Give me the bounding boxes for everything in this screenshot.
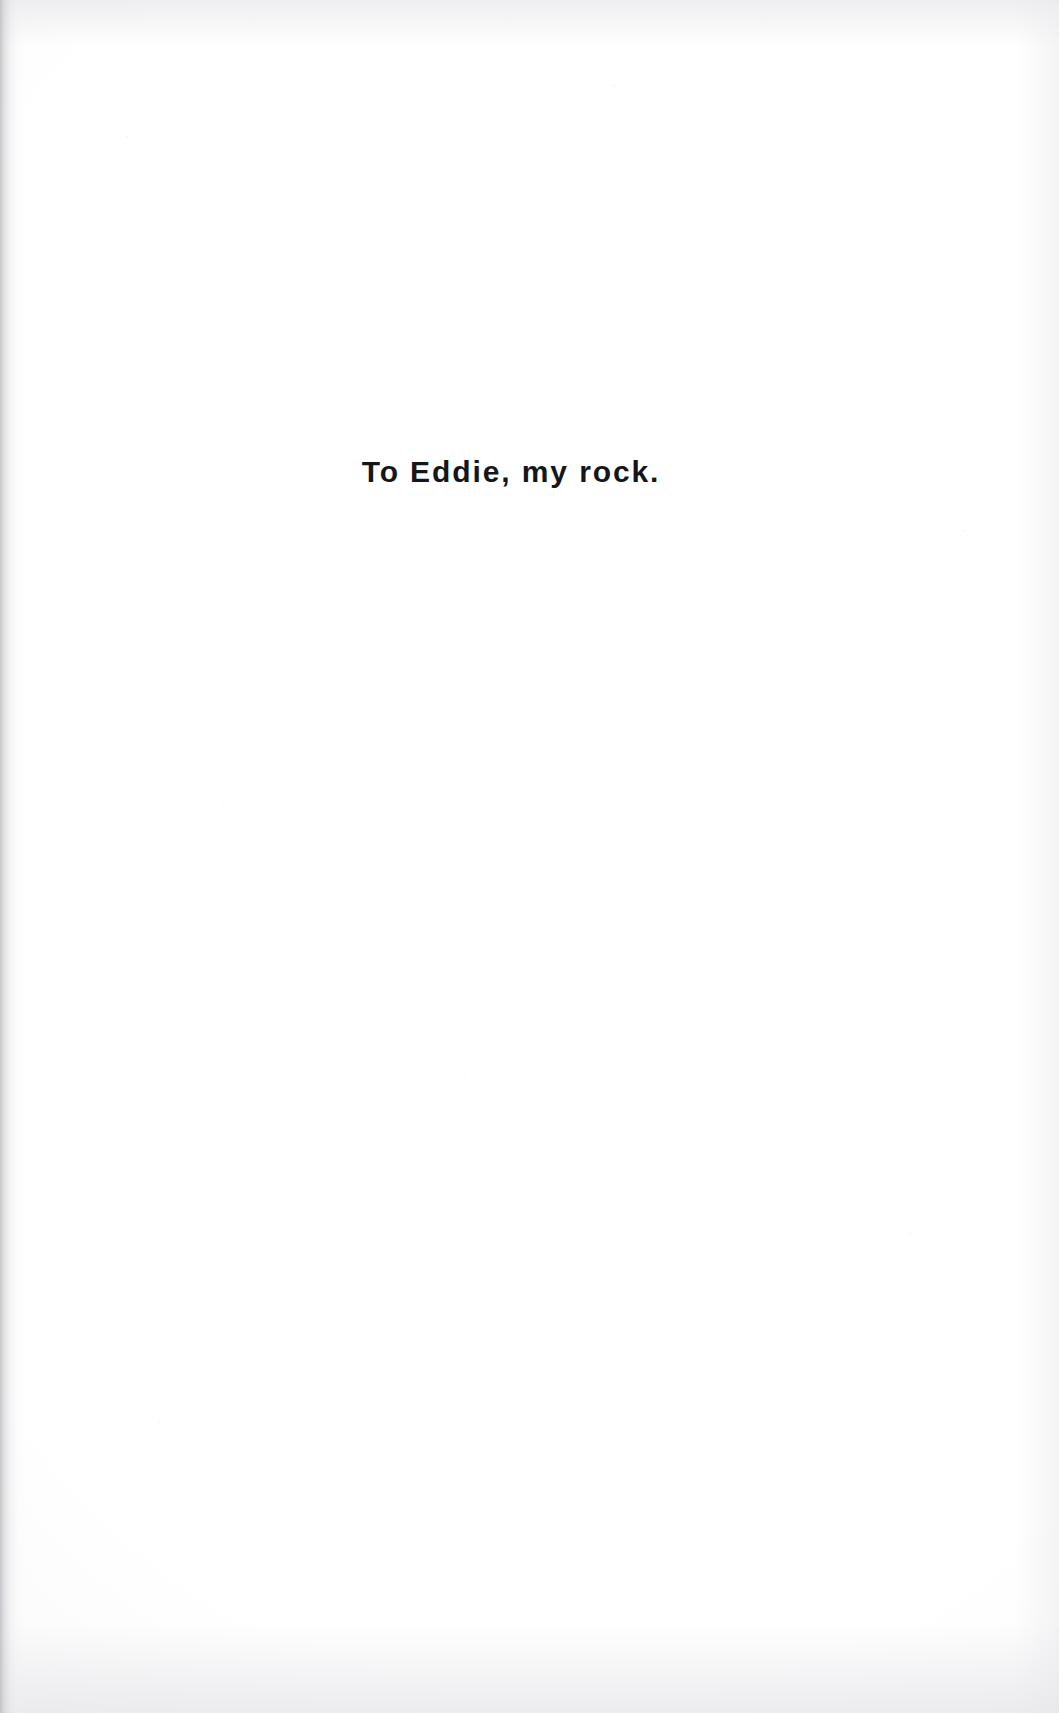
dedication-line: To Eddie, my rock. <box>362 455 661 490</box>
page-top-edge-shading <box>0 0 1059 46</box>
page-bottom-edge-shading <box>0 1623 1059 1713</box>
dedication-page: To Eddie, my rock. <box>0 0 1059 1713</box>
paper-grain-texture <box>0 0 1059 1713</box>
book-gutter-shadow <box>0 0 26 1713</box>
dedication-block: To Eddie, my rock. <box>0 455 1022 490</box>
page-right-edge-shading <box>1015 0 1059 1713</box>
